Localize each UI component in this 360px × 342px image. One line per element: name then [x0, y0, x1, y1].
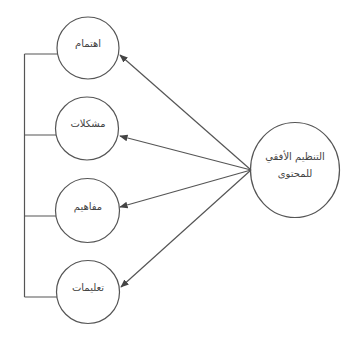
left-bracket-connector [25, 54, 59, 297]
hub-label: التنظيم الأفقي للمحتوى [265, 148, 325, 182]
node-label-problems: مشكلات [70, 117, 105, 131]
node-label-concepts: مفاهيم [74, 200, 102, 214]
arrow-to-concepts [120, 170, 251, 207]
hub-label-line-2: للمحتوى [265, 165, 325, 182]
node-label-instructions: تعليمات [72, 281, 104, 295]
arrow-to-instructions [121, 170, 251, 287]
hub-label-line-1: التنظيم الأفقي [265, 148, 325, 165]
node-label-interest: اهتمام [75, 37, 101, 51]
